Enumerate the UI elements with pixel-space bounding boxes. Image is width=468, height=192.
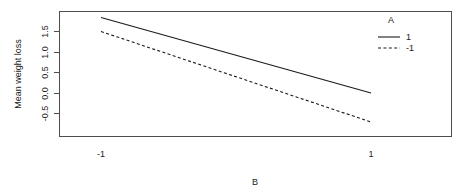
y-axis-tick-labels: 1.5 1.0 0.5 0.0 -0.5	[40, 25, 50, 121]
legend-title: A	[388, 15, 394, 25]
y-axis-title: Mean weight loss	[13, 39, 23, 109]
chart-canvas: 1.5 1.0 0.5 0.0 -0.5 Mean weight loss -1…	[0, 0, 468, 192]
y-tick-label: 0.0	[40, 87, 50, 100]
y-axis-ticks	[54, 32, 60, 114]
x-axis-title: B	[252, 177, 258, 187]
y-tick-label: 0.5	[40, 66, 50, 79]
y-tick-label: 1.5	[40, 25, 50, 38]
legend: A 1 -1	[378, 15, 414, 53]
x-tick-label: 1	[368, 149, 373, 159]
interaction-plot: 1.5 1.0 0.5 0.0 -0.5 Mean weight loss -1…	[0, 0, 468, 192]
plot-frame	[60, 12, 452, 137]
series-line-dashed	[101, 32, 371, 123]
y-tick-label: 1.0	[40, 46, 50, 59]
legend-label-solid: 1	[406, 32, 411, 42]
y-tick-label: -0.5	[40, 106, 50, 122]
legend-label-dashed: -1	[406, 43, 414, 53]
x-tick-label: -1	[97, 149, 105, 159]
series-line-solid	[101, 18, 371, 94]
